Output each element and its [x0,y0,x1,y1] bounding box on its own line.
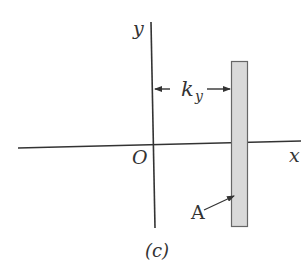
area-label: A [190,201,205,223]
ky-label-subscript: y [194,88,204,104]
figure-caption: (c) [145,240,169,261]
x-axis-label: x [289,144,300,166]
ky-label-main: k [181,77,194,101]
y-axis-line [151,22,155,228]
y-axis-label: y [132,17,144,39]
area-rectangle [232,62,248,227]
area-leader-arrow [204,196,234,210]
origin-label: O [132,146,148,168]
figure-canvas: y x O k y A (c) [0,0,308,264]
diagram-svg: y x O k y A (c) [0,0,308,264]
x-axis-line [18,141,301,148]
